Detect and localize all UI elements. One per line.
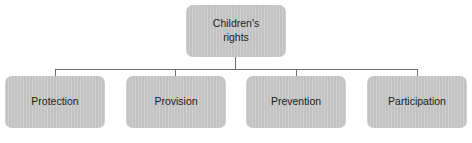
node-childrens-rights-label: Children's rights (209, 17, 263, 44)
node-provision-label: Provision (150, 95, 201, 109)
node-provision: Provision (126, 76, 226, 128)
connector-drop-prevention (296, 69, 297, 76)
connector-horizontal-bus (55, 69, 417, 70)
node-protection-label: Protection (27, 95, 82, 109)
connector-drop-provision (175, 69, 176, 76)
node-participation-label: Participation (384, 95, 450, 109)
connector-drop-participation (417, 69, 418, 76)
childrens-rights-diagram: Children's rights Protection Provision P… (0, 0, 472, 143)
node-protection: Protection (5, 76, 105, 128)
node-participation: Participation (367, 76, 467, 128)
node-prevention-label: Prevention (267, 95, 325, 109)
node-childrens-rights: Children's rights (186, 5, 286, 57)
node-prevention: Prevention (246, 76, 346, 128)
connector-drop-protection (55, 69, 56, 76)
